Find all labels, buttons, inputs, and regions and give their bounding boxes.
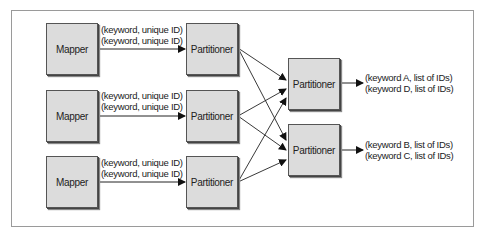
mapper-box-3: Mapper <box>46 156 98 208</box>
edge-label-line: (keyword, unique ID) <box>101 36 183 47</box>
output-label-line: (keyword C, list of IDs) <box>365 151 453 162</box>
output-label-line: (keyword D, list of IDs) <box>365 84 453 95</box>
partitioner-label: Partitioner <box>293 145 335 156</box>
partitioner-label: Partitioner <box>191 44 233 55</box>
partitioner-label: Partitioner <box>191 177 233 188</box>
partitioner-box-2: Partitioner <box>186 90 238 142</box>
partitioner-label: Partitioner <box>293 79 335 90</box>
reduce-partitioner-box-2: Partitioner <box>288 124 340 176</box>
mapper-edge-label-3: (keyword, unique ID) (keyword, unique ID… <box>101 158 183 179</box>
mapper-edge-label-2: (keyword, unique ID) (keyword, unique ID… <box>101 91 183 112</box>
partitioner-box-3: Partitioner <box>186 156 238 208</box>
edge-label-line: (keyword, unique ID) <box>101 158 183 169</box>
mapper-label: Mapper <box>56 111 88 122</box>
mapper-label: Mapper <box>56 44 88 55</box>
mapper-label: Mapper <box>56 177 88 188</box>
reduce-partitioner-box-1: Partitioner <box>288 58 340 110</box>
edge-label-line: (keyword, unique ID) <box>101 169 183 180</box>
output-label-2: (keyword B, list of IDs) (keyword C, lis… <box>365 140 453 161</box>
mapper-box-1: Mapper <box>46 23 98 75</box>
output-label-1: (keyword A, list of IDs) (keyword D, lis… <box>365 73 453 94</box>
mapper-box-2: Mapper <box>46 90 98 142</box>
partitioner-box-1: Partitioner <box>186 23 238 75</box>
partitioner-label: Partitioner <box>191 111 233 122</box>
mapper-edge-label-1: (keyword, unique ID) (keyword, unique ID… <box>101 25 183 46</box>
edge-label-line: (keyword, unique ID) <box>101 25 183 36</box>
output-label-line: (keyword A, list of IDs) <box>365 73 453 84</box>
edge-label-line: (keyword, unique ID) <box>101 91 183 102</box>
output-label-line: (keyword B, list of IDs) <box>365 140 453 151</box>
edge-label-line: (keyword, unique ID) <box>101 102 183 113</box>
